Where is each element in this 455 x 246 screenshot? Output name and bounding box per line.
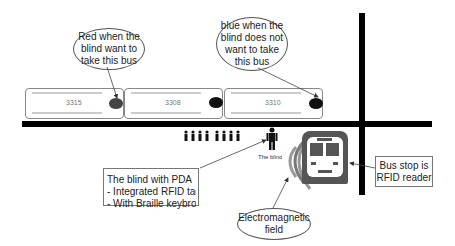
leader-lines: [0, 0, 455, 246]
